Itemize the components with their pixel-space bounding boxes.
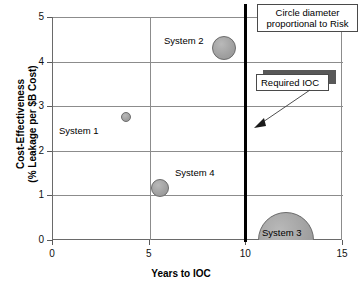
ioc-note-line-1: Required IOC <box>261 77 324 88</box>
xtick-label-5: 5 <box>137 249 161 259</box>
ytick-mark-3 <box>47 106 52 107</box>
xtick-mark-5 <box>149 240 150 245</box>
gridline-x-5 <box>150 17 151 240</box>
y-axis-title-line-1: Cost-Effectiveness <box>15 9 27 239</box>
gridline-y-3 <box>53 106 343 107</box>
xtick-label-10: 10 <box>233 249 257 259</box>
bubble-system-2[interactable] <box>212 36 236 60</box>
plot-frame-right <box>341 17 342 240</box>
ytick-mark-1 <box>47 195 52 196</box>
ytick-mark-5 <box>47 17 52 18</box>
ytick-mark-4 <box>47 62 52 63</box>
risk-note-line-2: proportional to Risk <box>262 18 353 29</box>
point-label-system-2: System 2 <box>164 36 204 46</box>
ytick-mark-2 <box>47 151 52 152</box>
xtick-mark-15 <box>342 240 343 245</box>
y-axis-title-line-2: (% Leakage per $B Cost) <box>27 9 39 239</box>
gridline-y-4 <box>53 62 343 63</box>
point-label-system-3: System 3 <box>262 228 302 238</box>
point-label-system-4: System 4 <box>175 168 215 178</box>
xtick-mark-0 <box>52 240 53 245</box>
ioc-note-callout: Required IOC <box>256 74 329 91</box>
gridline-y-1 <box>53 195 343 196</box>
x-axis-title: Years to IOC <box>0 268 362 279</box>
point-label-system-1: System 1 <box>59 126 99 136</box>
chart-root: 5 4 3 2 1 0 0 5 10 15 System 2 System 1 … <box>0 0 362 291</box>
bubble-system-1[interactable] <box>121 112 131 122</box>
gridline-y-2 <box>53 151 343 152</box>
bubble-system-4[interactable] <box>151 179 169 197</box>
risk-note-line-1: Circle diameter <box>262 7 353 18</box>
xtick-label-15: 15 <box>330 249 354 259</box>
xtick-label-0: 0 <box>40 249 64 259</box>
risk-note-callout: Circle diameter proportional to Risk <box>257 4 358 32</box>
required-ioc-line <box>244 4 247 242</box>
y-axis-title: Cost-Effectiveness (% Leakage per $B Cos… <box>15 9 39 239</box>
